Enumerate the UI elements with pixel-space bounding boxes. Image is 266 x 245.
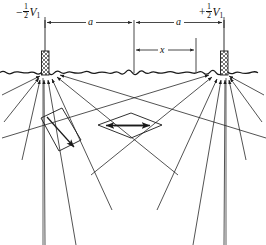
dimension-label-a-right: a (174, 17, 183, 27)
streamline-r4 (224, 80, 225, 245)
streamline-l4 (44, 80, 45, 245)
current-streamlines-group (2, 75, 266, 245)
dimension-label-x: x (158, 45, 166, 55)
left-terminal-subscript: 1 (37, 11, 41, 20)
left-terminal-fraction: 12 (23, 3, 29, 19)
electrode-left (42, 51, 50, 75)
right-terminal-symbol: V (213, 6, 220, 18)
left-terminal-label: −12V1 (16, 3, 40, 20)
streamline-r8 (2, 75, 209, 138)
right-terminal-subscript: 1 (220, 11, 224, 20)
streamline-r2 (230, 78, 262, 122)
streamline-l3 (22, 80, 40, 160)
left-terminal-sign: − (16, 6, 23, 18)
streamline-r3 (229, 80, 246, 160)
right-electrode-streamlines (2, 75, 264, 245)
streamline-l6 (52, 79, 112, 210)
streamline-r5 (193, 80, 221, 245)
left-electrode-streamlines (2, 75, 266, 245)
ground-surface-line (0, 70, 258, 74)
streamline-l2 (4, 78, 39, 122)
right-terminal-sign: + (199, 6, 206, 18)
streamline-l1 (2, 76, 40, 95)
left-terminal-symbol: V (30, 6, 37, 18)
electrode-right (221, 51, 229, 75)
right-terminal-label: +12V1 (199, 3, 223, 20)
figure-container: −12V1 +12V1 a a x (0, 0, 266, 245)
dimension-label-a-left: a (86, 17, 95, 27)
dimension-lines-group (45, 17, 224, 73)
right-terminal-fraction: 12 (206, 3, 212, 19)
streamline-r1 (229, 76, 264, 95)
streamline-l5 (48, 80, 76, 245)
field-diagram-svg (0, 0, 266, 245)
streamline-r6 (157, 79, 217, 210)
current-tube-element-left (41, 108, 81, 151)
